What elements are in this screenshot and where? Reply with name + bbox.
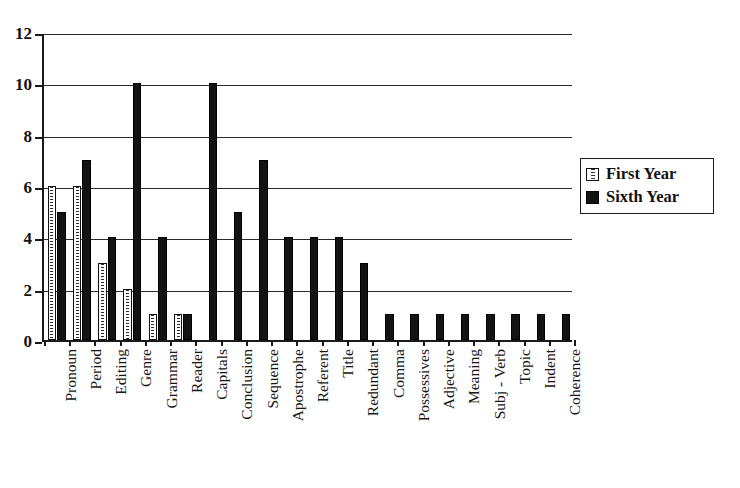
x-axis-label-possessives: Possessives [415,349,433,485]
bar-first-year [73,186,82,340]
y-axis-tick-label: 0 [0,333,32,350]
x-axis-tick-mark [347,340,349,346]
bar-first-year [174,314,183,340]
x-axis-label-adjective: Adjective [440,349,458,485]
chart-legend: First Year Sixth Year [580,158,714,214]
x-axis-label-redundant: Redundant [364,349,382,485]
x-axis-label-subj-verb: Subj - Verb [491,349,509,485]
bar-sixth-year [410,314,419,340]
x-axis-tick-mark [94,340,96,346]
bar-sixth-year [183,314,192,340]
x-axis-label-referent: Referent [314,349,332,485]
x-axis-label-apostrophe: Apostrophe [289,349,307,485]
y-axis-tick-mark [35,85,42,87]
bar-sixth-year [511,314,520,340]
y-axis-tick-label: 2 [0,282,32,299]
bar-sixth-year [537,314,546,340]
bar-sixth-year [486,314,495,340]
y-axis-tick-mark [35,342,42,344]
x-axis-tick-mark [221,340,223,346]
x-axis-label-sequence: Sequence [264,349,282,485]
y-axis-tick-mark [35,188,42,190]
x-axis-tick-mark [246,340,248,346]
bar-sixth-year [461,314,470,340]
bar-first-year [123,289,132,340]
y-axis-tick-label: 8 [0,128,32,145]
bar-chart: 024681012 PronounPeriodEditingGenreGramm… [0,0,740,488]
bar-sixth-year [209,83,218,340]
gridline [44,239,572,240]
bar-sixth-year [436,314,445,340]
y-axis-tick-label: 12 [0,25,32,42]
x-axis-tick-mark [296,340,298,346]
x-axis-tick-mark [271,340,273,346]
y-axis-tick-mark [35,239,42,241]
legend-label-sixth-year: Sixth Year [606,189,679,206]
y-axis-tick-label: 4 [0,230,32,247]
bar-sixth-year [234,212,243,340]
x-axis-tick-mark [372,340,374,346]
bar-sixth-year [108,237,117,340]
x-axis-tick-mark [69,340,71,346]
x-axis-label-reader: Reader [188,349,206,485]
x-axis-label-meaning: Meaning [465,349,483,485]
x-axis-label-coherence: Coherence [566,349,584,485]
bar-sixth-year [385,314,394,340]
x-axis-label-period: Period [87,349,105,485]
gridline [44,34,572,35]
x-axis-label-genre: Genre [137,349,155,485]
gridline [44,188,572,189]
legend-label-first-year: First Year [606,166,676,183]
x-axis-label-conclusion: Conclusion [238,349,256,485]
gridline [44,85,572,86]
x-axis-tick-mark [549,340,551,346]
y-axis-tick-mark [35,137,42,139]
bar-sixth-year [360,263,369,340]
x-axis-label-editing: Editing [112,349,130,485]
legend-item-first-year: First Year [586,163,708,186]
x-axis-tick-mark [170,340,172,346]
x-axis-label-grammar: Grammar [163,349,181,485]
bar-sixth-year [562,314,571,340]
x-axis-tick-mark [397,340,399,346]
gridline [44,137,572,138]
bar-sixth-year [133,83,142,340]
x-axis-label-pronoun: Pronoun [62,349,80,485]
bar-sixth-year [57,212,66,340]
x-axis-category-labels: PronounPeriodEditingGenreGrammarReaderCa… [42,349,572,485]
sixth-year-swatch-icon [586,191,599,204]
first-year-swatch-icon [586,168,599,181]
x-axis-label-indent: Indent [541,349,559,485]
plot-area [42,34,572,342]
y-axis-tick-mark [35,291,42,293]
x-axis-tick-mark [448,340,450,346]
x-axis-label-title: Title [339,349,357,485]
bar-first-year [48,186,57,340]
bar-sixth-year [259,160,268,340]
x-axis-tick-mark [195,340,197,346]
bar-sixth-year [158,237,167,340]
bar-first-year [149,314,158,340]
x-axis-tick-mark [145,340,147,346]
x-axis-tick-mark [473,340,475,346]
x-axis-tick-mark [574,340,576,346]
x-axis-label-comma: Comma [390,349,408,485]
legend-item-sixth-year: Sixth Year [586,186,708,209]
y-axis-tick-label: 6 [0,179,32,196]
bar-sixth-year [335,237,344,340]
y-axis-tick-mark [35,34,42,36]
x-axis-tick-mark [498,340,500,346]
bar-sixth-year [310,237,319,340]
x-axis-tick-mark [423,340,425,346]
x-axis-tick-mark [120,340,122,346]
bar-sixth-year [284,237,293,340]
x-axis-label-topic: Topic [516,349,534,485]
bar-first-year [98,263,107,340]
x-axis-tick-mark [44,340,46,346]
x-axis-tick-mark [524,340,526,346]
bar-sixth-year [82,160,91,340]
x-axis-tick-mark [322,340,324,346]
y-axis-tick-label: 10 [0,76,32,93]
x-axis-label-capitals: Capitals [213,349,231,485]
